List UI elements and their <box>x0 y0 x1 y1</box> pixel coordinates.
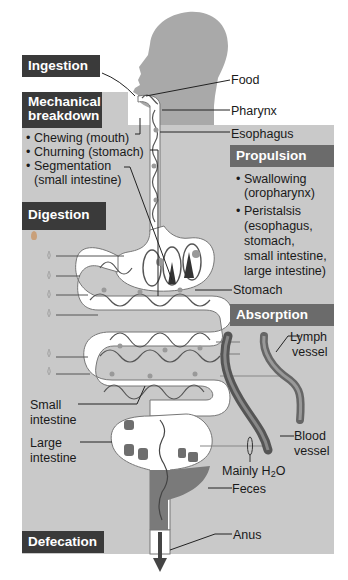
propulsion-item-peristalsis-detail-4: large intestine) <box>244 264 326 278</box>
digestion-label: Digestion <box>28 207 90 222</box>
label-anus: Anus <box>233 528 262 542</box>
enzyme-drop-icon <box>31 231 37 240</box>
label-lymph-vessel-2: vessel <box>292 345 327 359</box>
digestive-process-diagram: Ingestion Mechanical breakdown Propulsio… <box>0 0 348 580</box>
propulsion-item-peristalsis-detail-1: (esophagus, <box>244 219 313 233</box>
label-mainly-h2o: Mainly H2O <box>222 464 285 478</box>
label-esophagus: Esophagus <box>231 127 294 141</box>
label-pharynx: Pharynx <box>231 104 277 118</box>
mechanical-item-chewing: •Chewing (mouth) <box>26 131 129 145</box>
label-stomach: Stomach <box>233 283 282 297</box>
propulsion-label: Propulsion <box>236 148 307 163</box>
mechanical-breakdown-box: Mechanical breakdown <box>22 92 102 128</box>
label-feces: Feces <box>232 482 266 496</box>
label-large-intestine-1: Large <box>30 436 62 450</box>
defecation-label: Defecation <box>28 534 97 549</box>
propulsion-item-swallowing: •Swallowing <box>236 172 307 186</box>
propulsion-box: Propulsion <box>230 145 334 167</box>
mechanical-item-churning: •Churning (stomach) <box>26 145 144 159</box>
mechanical-item-segmentation: •Segmentation <box>26 159 111 173</box>
absorption-box: Absorption <box>230 304 334 326</box>
propulsion-item-peristalsis: •Peristalsis <box>236 204 301 218</box>
diagram-artwork <box>0 0 348 580</box>
propulsion-item-peristalsis-detail-2: stomach, <box>244 234 295 248</box>
ingestion-box: Ingestion <box>22 55 100 77</box>
defecation-box: Defecation <box>22 531 104 553</box>
label-small-intestine-1: Small <box>30 398 61 412</box>
mechanical-breakdown-label-2: breakdown <box>28 109 96 123</box>
defecation-arrow <box>153 558 167 572</box>
label-food: Food <box>231 73 260 87</box>
ingestion-label: Ingestion <box>28 58 88 73</box>
label-blood-vessel-2: vessel <box>294 444 329 458</box>
label-blood-vessel-1: Blood <box>294 429 326 443</box>
label-large-intestine-2: intestine <box>30 451 77 465</box>
propulsion-item-peristalsis-detail-3: small intestine, <box>244 249 327 263</box>
label-lymph-vessel-1: Lymph <box>290 330 327 344</box>
mechanical-item-segmentation-detail: (small intestine) <box>34 173 122 187</box>
mechanical-breakdown-label-1: Mechanical <box>28 95 96 109</box>
label-small-intestine-2: intestine <box>30 413 77 427</box>
propulsion-item-swallowing-detail: (oropharynx) <box>244 186 315 200</box>
digestion-box: Digestion <box>22 202 106 230</box>
absorption-label: Absorption <box>236 307 308 322</box>
